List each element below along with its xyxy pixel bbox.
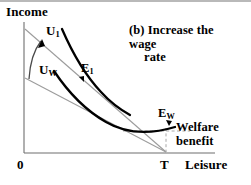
curve-label-uw-text: U xyxy=(39,62,49,77)
welfare-benefit-label: Welfarebenefit xyxy=(176,121,248,148)
curve-label-u1-subscript: 1 xyxy=(56,29,60,39)
y-axis-label: Income xyxy=(6,5,48,19)
e1-arrowhead-icon xyxy=(79,76,84,82)
indifference-curve-uw xyxy=(54,71,175,132)
origin-label: 0 xyxy=(17,158,24,172)
point-label-e1-subscript: 1 xyxy=(89,67,93,76)
point-label-ew-subscript: W xyxy=(166,112,174,121)
figure-title-line2: rate xyxy=(129,51,233,65)
welfare-benefit-line2: benefit xyxy=(176,135,248,149)
curve-label-uw-subscript: W xyxy=(49,68,58,78)
x-axis-label: Leisure xyxy=(185,158,227,172)
time-endowment-label: T xyxy=(160,158,169,172)
point-label-e1: E1 xyxy=(81,62,94,76)
figure-title: (b) Increase the wagerate xyxy=(129,24,233,65)
point-label-ew: EW xyxy=(158,107,175,121)
welfare-benefit-line1: Welfare xyxy=(176,120,219,134)
curve-label-u1-text: U xyxy=(46,23,56,38)
curve-label-uw: UW xyxy=(39,63,57,77)
curve-label-u1: U1 xyxy=(46,24,60,38)
indifference-curve-u1 xyxy=(62,29,130,115)
figure-title-line1: (b) Increase the wage xyxy=(129,23,214,51)
labor-supply-diagram: Income U1 UW E1 EW (b) Increase the wage… xyxy=(0,0,251,185)
